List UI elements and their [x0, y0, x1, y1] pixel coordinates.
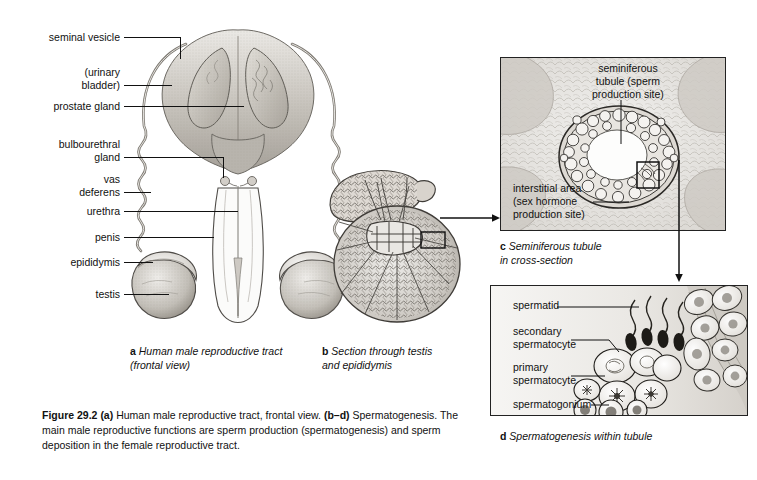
label-primary-spermatocyte-line1: primary [513, 361, 548, 373]
panel-c-caption: c Seminiferous tubule in cross-section [500, 240, 690, 267]
leader-urethra [124, 211, 238, 212]
figure-caption-part-a: (a) Human male reproductive tract, front… [100, 409, 324, 421]
label-spermatid: spermatid [513, 299, 559, 312]
panel-b-caption-line1: Section through testis [331, 345, 432, 357]
label-interstitial-area: interstitial area (sex hormone productio… [513, 182, 585, 221]
panel-d-caption-text: Spermatogenesis within tubule [509, 430, 652, 442]
leader-vas-deferens [124, 192, 151, 193]
panel-c-caption-letter: c [500, 240, 506, 252]
panel-c-caption-line1: Seminiferous tubule [509, 240, 602, 252]
label-penis: penis [0, 231, 120, 244]
panel-a-caption-text: Human male reproductive tract (frontal v… [130, 345, 282, 371]
panel-a-caption: a Human male reproductive tract (frontal… [130, 345, 300, 372]
label-urinary-bladder-line1: (urinary [0, 66, 120, 79]
penis-shaft [213, 186, 264, 323]
leader-epididymis [124, 262, 153, 263]
bulbourethral-glands [221, 177, 257, 187]
figure-caption-bd-text: Spermatogenesis. [353, 409, 438, 421]
bladder-prostate-mass [162, 30, 314, 174]
panel-b-illustration [325, 152, 475, 332]
arrow-c-to-d [673, 160, 685, 284]
leader-bulbourethral-gland [124, 157, 223, 158]
label-interstitial-area-line3: production site) [513, 208, 585, 220]
panel-a-caption-letter: a [130, 345, 136, 357]
label-testis: testis [0, 288, 120, 301]
label-vas-deferens-line1: vas [0, 173, 120, 186]
label-prostate-gland: prostate gland [0, 100, 120, 113]
leader-seminal-vesicle [124, 37, 180, 38]
label-seminiferous-tubule-line3: production site) [592, 88, 664, 100]
label-urinary-bladder-line2: bladder) [0, 79, 120, 92]
figure-caption-a-text: Human male reproductive tract, frontal v… [116, 409, 321, 421]
label-vas-deferens-line2: deferens [0, 186, 120, 199]
label-seminiferous-tubule-line2: tubule (sperm [596, 75, 660, 87]
panel-b-caption-line2: and epididymis [322, 359, 392, 371]
label-spermatogonium: spermatogonium [513, 398, 591, 411]
panel-b-caption-letter: b [322, 345, 328, 357]
leader-urinary-bladder [124, 85, 172, 86]
arrow-b-to-c [440, 212, 502, 224]
panel-c-caption-line2: in cross-section [500, 254, 573, 266]
leader-seminal-vesicle-v [180, 37, 181, 59]
label-urethra: urethra [0, 205, 120, 218]
figure-caption: Figure 29.2 (a) Human male reproductive … [42, 408, 462, 453]
figure-caption-part-bd: (b–d) Spermatogenesis. [324, 409, 440, 421]
leader-bulbourethral-gland-v [223, 157, 224, 178]
figure-number: Figure 29.2 [42, 409, 97, 421]
label-interstitial-area-line2: (sex hormone [513, 195, 577, 207]
panel-a-illustration [126, 22, 351, 337]
leader-penis [124, 237, 214, 238]
label-primary-spermatocyte-line2: spermatocyte [513, 374, 576, 386]
label-secondary-spermatocyte-line2: spermatocyte [513, 338, 576, 350]
label-primary-spermatocyte: primary spermatocyte [513, 361, 576, 387]
panel-d-caption: d Spermatogenesis within tubule [500, 430, 730, 444]
leader-testis [124, 294, 169, 295]
panel-d-caption-letter: d [500, 430, 506, 442]
label-seminiferous-tubule: seminiferous tubule (sperm production si… [592, 62, 664, 101]
label-bulbourethral-gland-line1: bulbourethral [0, 138, 120, 151]
panel-b-caption: b Section through testis and epididymis [322, 345, 492, 372]
label-seminal-vesicle: seminal vesicle [0, 31, 120, 44]
label-interstitial-area-line1: interstitial area [513, 182, 581, 194]
label-secondary-spermatocyte-line1: secondary [513, 325, 561, 337]
label-epididymis: epididymis [0, 256, 120, 269]
label-bulbourethral-gland-line2: gland [0, 151, 120, 164]
label-secondary-spermatocyte: secondary spermatocyte [513, 325, 576, 351]
leader-prostate-gland [124, 106, 244, 107]
label-seminiferous-tubule-line1: seminiferous [598, 62, 658, 74]
